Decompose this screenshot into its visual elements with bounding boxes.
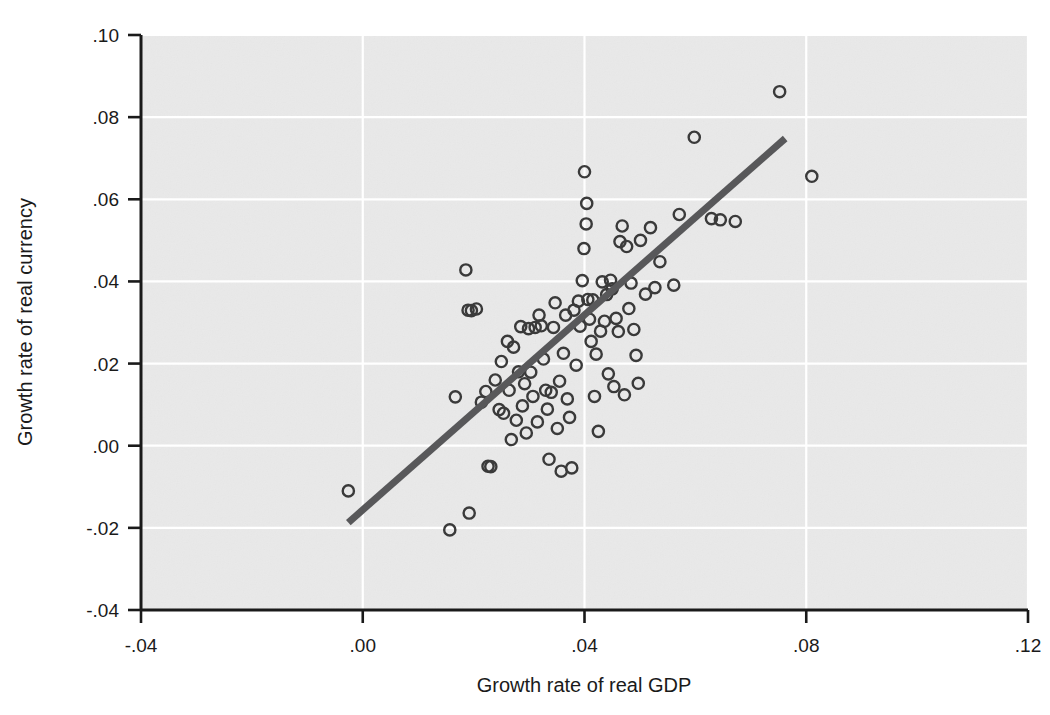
x-axis-title: Growth rate of real GDP [477,674,692,696]
x-axis-tick-label: .12 [1015,635,1041,656]
y-axis-tick-label: -.02 [86,518,119,539]
y-axis-tick-labels: -.04-.02.00.02.04.06.08.10 [86,25,119,621]
x-axis-tick-labels: -.04.00.04.08.12 [125,635,1042,656]
chart-canvas: -.04.00.04.08.12 -.04-.02.00.02.04.06.08… [0,0,1050,715]
y-axis-tick-label: -.04 [86,600,119,621]
y-axis-tick-label: .02 [93,354,119,375]
x-axis-tick-label: .04 [571,635,598,656]
x-axis-tick-label: -.04 [125,635,158,656]
scatter-plot-figure: -.04.00.04.08.12 -.04-.02.00.02.04.06.08… [0,0,1050,715]
y-axis-ticks [128,35,141,610]
x-axis-ticks [141,610,1028,623]
y-axis-tick-label: .00 [93,436,119,457]
y-axis-title: Growth rate of real currency [14,198,36,446]
x-axis-tick-label: .08 [793,635,819,656]
y-axis-tick-label: .06 [93,189,119,210]
x-axis-tick-label: .00 [350,635,376,656]
y-axis-tick-label: .10 [93,25,119,46]
y-axis-tick-label: .08 [93,107,119,128]
y-axis-tick-label: .04 [93,271,120,292]
